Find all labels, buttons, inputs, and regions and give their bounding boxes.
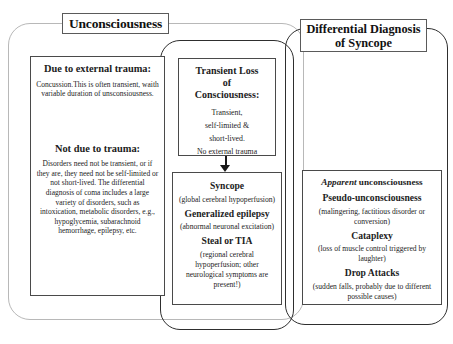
text-syncope: (global cerebral hypoperfusion)	[177, 195, 277, 205]
heading-apparent-unconsciousness: Apparent unconsciousness	[307, 177, 437, 188]
heading-pseudo-unconsciousness: Pseudo-unconsciousness	[307, 192, 437, 204]
title-ddx-line2: of Syncope	[335, 36, 392, 50]
heading-generalized-epilepsy: Generalized epilepsy	[177, 208, 277, 220]
tloc-item-no-external-trauma: No external trauma	[183, 145, 271, 158]
heading-tloc-line2: of	[223, 77, 231, 88]
spacer	[36, 99, 159, 143]
heading-cataplexy: Cataplexy	[307, 230, 437, 242]
arrow-down-icon	[220, 165, 230, 172]
heading-syncope: Syncope	[177, 180, 277, 192]
heading-tloc: Transient Loss of Consciousness:	[183, 65, 271, 101]
title-ddx-line1: Differential Diagnosis	[306, 22, 420, 36]
heading-apparent-rest: unconsciousness	[357, 177, 423, 187]
heading-drop-attacks: Drop Attacks	[307, 267, 437, 279]
heading-steal-or-tia: Steal or TIA	[177, 235, 277, 247]
heading-tloc-line1: Transient Loss	[196, 65, 259, 76]
title-differential-diagnosis: Differential Diagnosis of Syncope	[300, 19, 427, 52]
text-due-to-external-trauma: Concussion.This is often transient, wait…	[36, 80, 159, 99]
title-unconsciousness: Unconsciousness	[62, 13, 169, 34]
apparent-unconsciousness-box: Apparent unconsciousness Pseudo-unconsci…	[302, 170, 442, 305]
text-pseudo-unconsciousness: (malingering, factitious disorder or con…	[307, 207, 437, 227]
transient-loss-of-consciousness-box: Transient Loss of Consciousness: Transie…	[178, 58, 276, 156]
text-cataplexy: (loss of muscle control triggered by lau…	[307, 244, 437, 264]
heading-not-due-to-trauma: Not due to trauma:	[36, 143, 159, 156]
text-drop-attacks: (sudden falls, probably due to different…	[307, 282, 437, 302]
tloc-item-transient: Transient,	[183, 106, 271, 119]
tloc-causes-box: Syncope (global cerebral hypoperfusion) …	[172, 172, 282, 305]
tloc-item-short-lived: short-lived.	[183, 132, 271, 145]
heading-tloc-line3: Consciousness:	[195, 89, 259, 100]
diagram-canvas: Unconsciousness Differential Diagnosis o…	[0, 0, 453, 344]
tloc-item-self-limited: self-limited &	[183, 119, 271, 132]
title-unconsciousness-text: Unconsciousness	[69, 16, 162, 32]
text-generalized-epilepsy: (abnormal neuronal excitation)	[177, 222, 277, 232]
unconsciousness-causes-box: Due to external trauma: Concussion.This …	[30, 56, 165, 296]
heading-apparent-italic: Apparent	[321, 177, 356, 187]
text-not-due-to-trauma: Disorders need not be transient, or if t…	[36, 159, 159, 236]
heading-due-to-external-trauma: Due to external trauma:	[36, 63, 159, 76]
text-steal-or-tia: (regional cerebral hypoperfusion; other …	[177, 250, 277, 290]
